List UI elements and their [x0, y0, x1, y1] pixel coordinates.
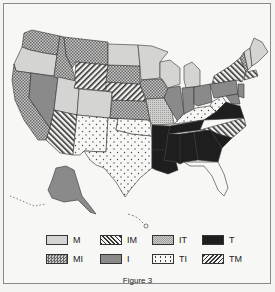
state-south-dakota — [106, 65, 140, 84]
state-new-york — [212, 58, 246, 84]
state-new-jersey — [238, 84, 244, 98]
legend-swatch-i — [100, 254, 122, 264]
state-nebraska — [106, 82, 146, 101]
legend-swatch-t — [202, 235, 224, 245]
legend-item-m: M — [46, 234, 81, 246]
state-kansas — [110, 100, 150, 120]
legend-label: IT — [179, 235, 187, 245]
map-legend: M IM IT T MI I TI TM — [46, 234, 266, 274]
state-north-dakota — [108, 44, 140, 66]
legend-item-im: IM — [100, 234, 137, 246]
state-colorado — [77, 89, 112, 118]
legend-swatch-tm — [202, 254, 224, 264]
state-wyoming — [74, 62, 108, 91]
legend-item-it: IT — [152, 234, 187, 246]
state-florida — [184, 162, 228, 196]
state-hawaii — [128, 214, 146, 226]
legend-label: MI — [73, 254, 83, 264]
state-michigan — [184, 62, 200, 88]
state-alaska — [48, 166, 96, 214]
legend-item-t: T — [202, 234, 235, 246]
legend-item-ti: TI — [152, 253, 187, 265]
legend-item-mi: MI — [46, 253, 83, 265]
figure-caption: Figure 3 — [0, 276, 275, 285]
legend-label: TI — [179, 254, 187, 264]
alaska-aleutians — [10, 196, 46, 206]
state-new-mexico — [73, 115, 108, 155]
legend-item-i: I — [100, 253, 130, 265]
legend-label: I — [127, 254, 130, 264]
legend-label: T — [229, 235, 235, 245]
state-ohio — [194, 84, 212, 106]
hawaii-big-island — [144, 224, 148, 228]
legend-label: M — [73, 235, 81, 245]
legend-swatch-mi — [46, 254, 68, 264]
legend-label: IM — [127, 235, 137, 245]
state-maine — [250, 38, 268, 66]
legend-swatch-ti — [152, 254, 174, 264]
legend-swatch-im — [100, 235, 122, 245]
legend-label: TM — [229, 254, 242, 264]
legend-swatch-it — [152, 235, 174, 245]
state-utah — [54, 77, 79, 115]
legend-swatch-m — [46, 235, 68, 245]
legend-item-tm: TM — [202, 253, 242, 265]
